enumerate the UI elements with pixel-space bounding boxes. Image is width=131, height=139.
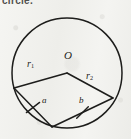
circle-diagram	[0, 0, 131, 139]
chord-a-label: a	[42, 96, 47, 105]
chord-b-label: b	[79, 96, 84, 105]
radius-1-label-subscript: 1	[31, 62, 34, 69]
radius-2-label-subscript: 2	[90, 74, 93, 81]
radius-1-label: r1	[27, 59, 34, 70]
radius-1-line	[14, 73, 67, 88]
chord-a-tick-mark	[25, 102, 40, 112]
figure-canvas: circle. O r1 r2 a b	[0, 0, 131, 139]
radius-2-label: r2	[86, 71, 93, 82]
center-label-o: O	[64, 50, 72, 61]
chord-b-tick-mark	[76, 107, 88, 118]
